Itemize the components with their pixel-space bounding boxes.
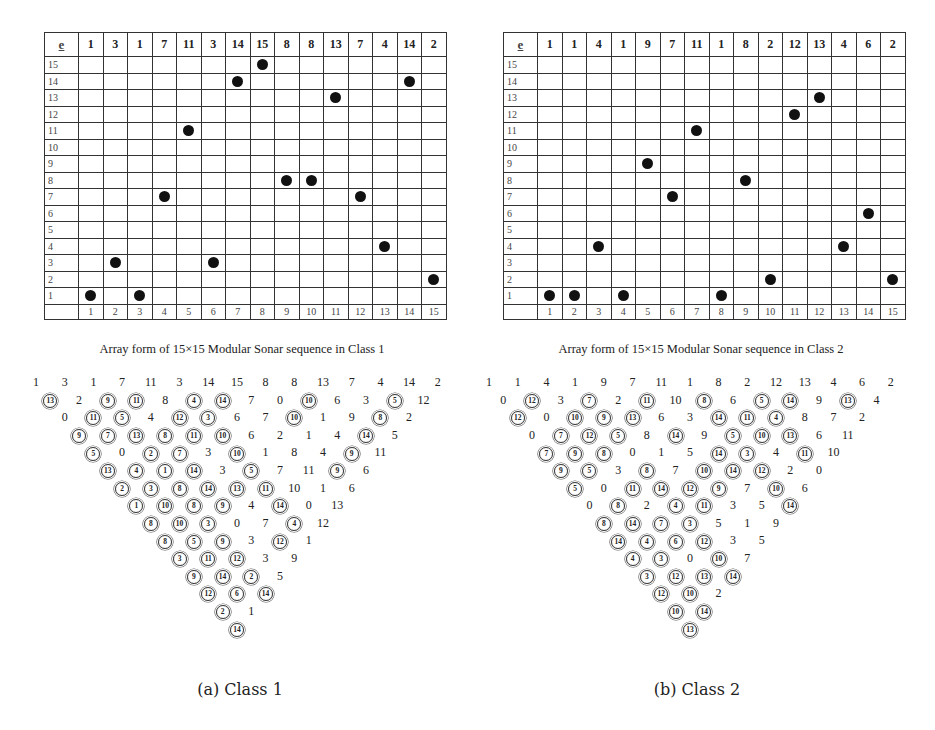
- circled-number: 13: [626, 411, 640, 425]
- grid-cell: [538, 73, 563, 90]
- grid-cell: [562, 255, 587, 272]
- difference-value: 3: [677, 409, 703, 425]
- circled-difference: 7: [648, 515, 674, 531]
- grid-cell: [103, 90, 128, 107]
- difference-value: 11: [367, 444, 393, 460]
- grid-cell: [324, 238, 349, 255]
- difference-value: 7: [253, 409, 279, 425]
- grid-cell: [177, 189, 202, 206]
- circled-difference: 13: [224, 480, 250, 496]
- circled-number: 13: [697, 570, 711, 584]
- difference-value: 5: [706, 515, 732, 531]
- grid-cell: [562, 57, 587, 74]
- header-value: 3: [103, 33, 128, 57]
- grid-cell: [660, 156, 685, 173]
- grid-cell: [275, 205, 300, 222]
- grid-cell: [152, 271, 177, 288]
- grid-cell: [636, 57, 661, 74]
- grid-cell: [177, 271, 202, 288]
- circled-difference: 9: [562, 444, 588, 460]
- difference-value: 4: [763, 444, 789, 460]
- grid-cell: [397, 189, 422, 206]
- grid-cell: [299, 238, 324, 255]
- grid-row: 5: [504, 222, 906, 239]
- circled-number: 9: [345, 447, 359, 461]
- circled-number: 14: [359, 429, 373, 443]
- circled-number: 11: [129, 394, 143, 408]
- grid-cell: [226, 222, 251, 239]
- grid-cell: [79, 73, 104, 90]
- grid-cell: [807, 271, 832, 288]
- grid-cell: [177, 90, 202, 107]
- grid-cell: [636, 205, 661, 222]
- grid-cell: [660, 106, 685, 123]
- column-label: 11: [783, 304, 808, 319]
- difference-value: 1: [677, 374, 703, 390]
- row-label: 8: [504, 172, 538, 189]
- circled-difference: 8: [591, 515, 617, 531]
- grid-row: 14: [504, 73, 906, 90]
- grid-cell: [807, 123, 832, 140]
- circled-difference: 2: [138, 444, 164, 460]
- row-label: 7: [504, 189, 538, 206]
- circled-number: 5: [115, 411, 129, 425]
- dot-marker: [593, 241, 604, 252]
- difference-value: 2: [605, 392, 631, 408]
- row-label: 14: [45, 73, 79, 90]
- column-label: 5: [177, 304, 202, 319]
- grid-cell: [758, 106, 783, 123]
- grid-cell: [734, 156, 759, 173]
- grid-cell: [299, 106, 324, 123]
- difference-value: 7: [663, 462, 689, 478]
- grid-cell: [709, 139, 734, 156]
- circled-difference: 14: [706, 409, 732, 425]
- circled-number: 12: [683, 482, 697, 496]
- grid-cell: [660, 189, 685, 206]
- circled-number: 7: [654, 517, 668, 531]
- grid-cell: [832, 238, 857, 255]
- grid-cell: [275, 271, 300, 288]
- grid-cell: [807, 156, 832, 173]
- grid-cell: [299, 90, 324, 107]
- circled-number: 4: [640, 535, 654, 549]
- grid-cell: [103, 139, 128, 156]
- difference-value: 0: [591, 480, 617, 496]
- grid-cell: [587, 156, 612, 173]
- circled-number: 11: [187, 429, 201, 443]
- circled-number: 10: [158, 499, 172, 513]
- grid-cell: [397, 238, 422, 255]
- difference-value: 4: [820, 374, 846, 390]
- difference-value: 12: [410, 392, 436, 408]
- dot-marker: [404, 76, 415, 87]
- grid-cell: [562, 189, 587, 206]
- grid-cell: [275, 172, 300, 189]
- grid-cell: [422, 205, 447, 222]
- difference-value: 3: [720, 532, 746, 548]
- circled-difference: 10: [167, 515, 193, 531]
- difference-value: 4: [138, 409, 164, 425]
- grid-cell: [128, 57, 153, 74]
- grid-caption-class1: Array form of 15×15 Modular Sonar sequen…: [44, 342, 440, 357]
- header-value: 14: [397, 33, 422, 57]
- circled-number: 5: [582, 464, 596, 478]
- circled-difference: 10: [210, 427, 236, 443]
- column-label: 6: [201, 304, 226, 319]
- dot-marker: [814, 92, 825, 103]
- circled-difference: 12: [663, 568, 689, 584]
- circled-number: 4: [626, 552, 640, 566]
- grid-cell: [79, 139, 104, 156]
- grid-cell: [79, 238, 104, 255]
- grid-cell: [201, 205, 226, 222]
- grid-cell: [587, 172, 612, 189]
- grid-cell: [611, 123, 636, 140]
- row-label: 4: [504, 238, 538, 255]
- header-value: 7: [660, 33, 685, 57]
- grid-cell: [562, 90, 587, 107]
- grid-cell: [807, 172, 832, 189]
- grid-cell: [807, 73, 832, 90]
- difference-value: 11: [138, 374, 164, 390]
- difference-value: 5: [749, 497, 775, 513]
- grid-cell: [422, 172, 447, 189]
- circled-difference: 13: [37, 392, 63, 408]
- grid-cell: [611, 73, 636, 90]
